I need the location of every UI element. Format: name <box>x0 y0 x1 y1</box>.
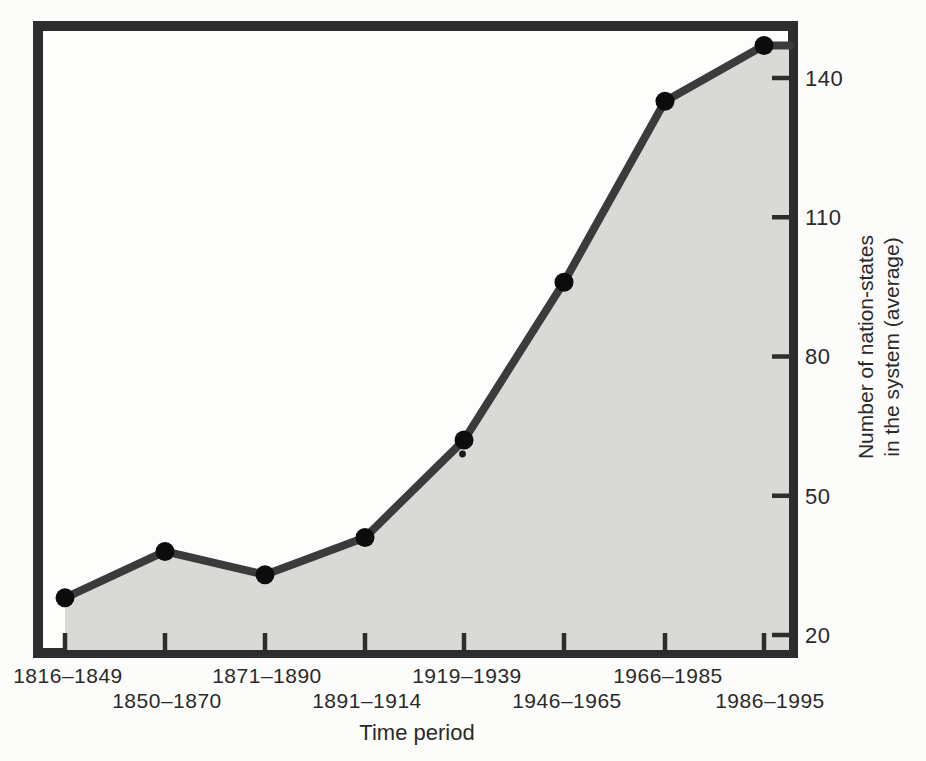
y-tick-label-140: 140 <box>805 66 843 92</box>
y-tick-label-50: 50 <box>805 484 830 510</box>
x-tick-label-1891-1914: 1891–1914 <box>312 689 422 713</box>
data-point <box>56 588 75 607</box>
y-tick-label-110: 110 <box>805 205 842 231</box>
x-tick-label-1946-1965: 1946–1965 <box>512 689 622 713</box>
y-axis-title: Number of nation-states in the system (a… <box>853 227 907 467</box>
y-axis-title-line-1: Number of nation-states <box>853 227 879 467</box>
data-point <box>156 542 175 561</box>
chart-page: 140 110 80 50 20 1816–1849 1850–1870 187… <box>0 0 926 761</box>
y-tick-label-80: 80 <box>805 344 830 370</box>
data-point <box>356 528 375 547</box>
x-tick-label-1871-1890: 1871–1890 <box>212 664 322 688</box>
data-point <box>455 431 474 450</box>
x-tick-label-1966-1985: 1966–1985 <box>613 664 723 688</box>
x-tick-label-1816-1849: 1816–1849 <box>13 664 123 688</box>
data-point <box>555 273 574 292</box>
x-tick-label-1986-1995: 1986–1995 <box>715 689 825 713</box>
x-tick-label-1919-1939: 1919–1939 <box>412 664 522 688</box>
data-point <box>656 92 675 111</box>
area-fill <box>65 46 789 650</box>
chart-canvas <box>0 0 926 761</box>
data-point <box>755 36 774 55</box>
data-point <box>256 565 275 584</box>
x-axis-title: Time period <box>359 720 474 746</box>
y-tick-label-20: 20 <box>805 623 830 649</box>
x-tick-label-1850-1870: 1850–1870 <box>112 689 222 713</box>
y-axis-title-line-2: in the system (average) <box>879 227 905 467</box>
scan-speck-artifact <box>459 451 466 458</box>
